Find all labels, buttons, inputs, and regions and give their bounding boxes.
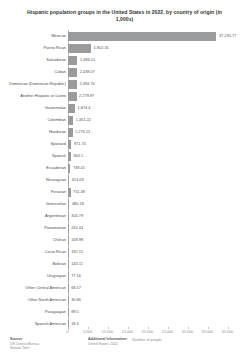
bar-value-label: 2,394.74 [80, 81, 95, 86]
bar-value-label: 37,235.77 [219, 33, 236, 38]
bar-category-label: Puerto Rican [4, 45, 66, 50]
bar-value-label: 304.79 [71, 213, 83, 218]
bar-row: Nicaraguan413.09 [0, 174, 249, 186]
x-axis-tick-label: 0 [66, 330, 68, 334]
bar-value-label: 1,461.22 [76, 117, 91, 122]
bar-category-label: Spaniard [4, 141, 66, 146]
bar-track [68, 128, 228, 137]
bar-track [68, 296, 228, 305]
bar-row: Argentinean304.79 [0, 210, 249, 222]
bar-row: Guatemalan1,874.4 [0, 102, 249, 114]
bar-category-label: Nicaraguan [4, 177, 66, 182]
bar[interactable] [68, 200, 70, 209]
bar[interactable] [68, 284, 69, 293]
bar-category-label: Dominican (Dominican Republic) [4, 81, 66, 86]
bar-row: Cuban2,438.07 [0, 66, 249, 78]
bar[interactable] [68, 116, 74, 125]
bar-value-label: 89.5 [71, 309, 79, 314]
bar-category-label: Bolivian [4, 261, 66, 266]
bar[interactable] [68, 44, 92, 53]
bar[interactable] [68, 260, 69, 269]
bar[interactable] [68, 128, 73, 137]
bar-row: Honduran1,276.21 [0, 126, 249, 138]
bar-value-label: 2,486.51 [80, 57, 95, 62]
bar-track [68, 152, 228, 161]
bar-track [68, 116, 228, 125]
bar-row: Mexican37,235.77 [0, 30, 249, 42]
bar-row: Spanish844.1 [0, 150, 249, 162]
bar-value-label: 971.74 [74, 141, 86, 146]
bar-category-label: Another Hispanic or Latino [4, 93, 66, 98]
bar[interactable] [68, 224, 69, 233]
bar[interactable] [68, 248, 69, 257]
bar-category-label: Costa Rican [4, 249, 66, 254]
bar-value-label: 2,279.97 [79, 93, 94, 98]
x-axis-tick-label: 10,000 [102, 330, 113, 334]
bar-value-label: 2,438.07 [80, 69, 95, 74]
additional-info-block: Additional Information: United States; 2… [88, 337, 128, 346]
bar[interactable] [68, 272, 69, 281]
bar-row: Colombian1,461.22 [0, 114, 249, 126]
bar[interactable] [68, 212, 69, 221]
bar[interactable] [68, 32, 217, 41]
bar-category-label: Ecuadorian [4, 165, 66, 170]
bar-category-label: Salvadoran [4, 57, 66, 62]
chart-title: Hispanic population groups in the United… [22, 9, 227, 24]
bar-value-label: 1,276.21 [75, 129, 90, 134]
bar-track [68, 248, 228, 257]
bar-track [68, 32, 228, 41]
bar-category-label: Colombian [4, 117, 66, 122]
bar[interactable] [68, 68, 78, 77]
bar-track [68, 212, 228, 221]
x-axis-tick-label: 30,000 [182, 330, 193, 334]
bar-row: Another Hispanic or Latino2,279.97 [0, 90, 249, 102]
bar[interactable] [68, 296, 69, 305]
bar-track [68, 164, 228, 173]
x-axis-tick-label: 25,000 [162, 330, 173, 334]
bar-row: Spaniard971.74 [0, 138, 249, 150]
bar[interactable] [68, 176, 70, 185]
bar-row: Spanish American18.4 [0, 318, 249, 330]
bar[interactable] [68, 308, 69, 317]
bar-row: Ecuadorian738.41 [0, 162, 249, 174]
bar-row: Peruvian751.38 [0, 186, 249, 198]
bar-category-label: Uruguayan [4, 273, 66, 278]
x-axis-tick-label: 40,000 [222, 330, 233, 334]
source-line-2: Statista Tech [10, 346, 39, 350]
bar-track [68, 140, 228, 149]
bar-row: Paraguayan89.5 [0, 306, 249, 318]
bar-row: Bolivian143.11 [0, 258, 249, 270]
bar[interactable] [68, 164, 71, 173]
bar-category-label: Cuban [4, 69, 66, 74]
bar[interactable] [68, 140, 72, 149]
bar[interactable] [68, 56, 78, 65]
bar-category-label: Peruvian [4, 189, 66, 194]
bar-value-label: 751.38 [73, 189, 85, 194]
bar[interactable] [68, 236, 69, 245]
x-axis-tick-label: 5,000 [83, 330, 92, 334]
bar-row: Dominican (Dominican Republic)2,394.74 [0, 78, 249, 90]
bar-track [68, 284, 228, 293]
bar[interactable] [68, 80, 78, 89]
bar-category-label: Venezuelan [4, 201, 66, 206]
additional-info-line-1: United States; 2022 [88, 342, 128, 346]
bar[interactable] [68, 152, 71, 161]
bar[interactable] [68, 92, 77, 101]
bar-category-label: Paraguayan [4, 309, 66, 314]
bar-plot-area: Mexican37,235.77Puerto Rican5,902.31Salv… [0, 30, 249, 330]
bar[interactable] [68, 104, 75, 113]
bar-row: Panamanian242.44 [0, 222, 249, 234]
bar-row: Other Central American68.57 [0, 282, 249, 294]
bar-value-label: 30.86 [71, 297, 81, 302]
bar-category-label: Other South American [4, 297, 66, 302]
bar-track [68, 176, 228, 185]
bar[interactable] [68, 188, 71, 197]
bar-row: Other South American30.86 [0, 294, 249, 306]
bar-value-label: 242.44 [71, 225, 83, 230]
bar-value-label: 413.09 [72, 177, 84, 182]
bar-row: Venezuelan480.18 [0, 198, 249, 210]
bar-category-label: Chilean [4, 237, 66, 242]
bar-track [68, 44, 228, 53]
bar-track [68, 236, 228, 245]
chart-root: Hispanic population groups in the United… [0, 0, 249, 361]
